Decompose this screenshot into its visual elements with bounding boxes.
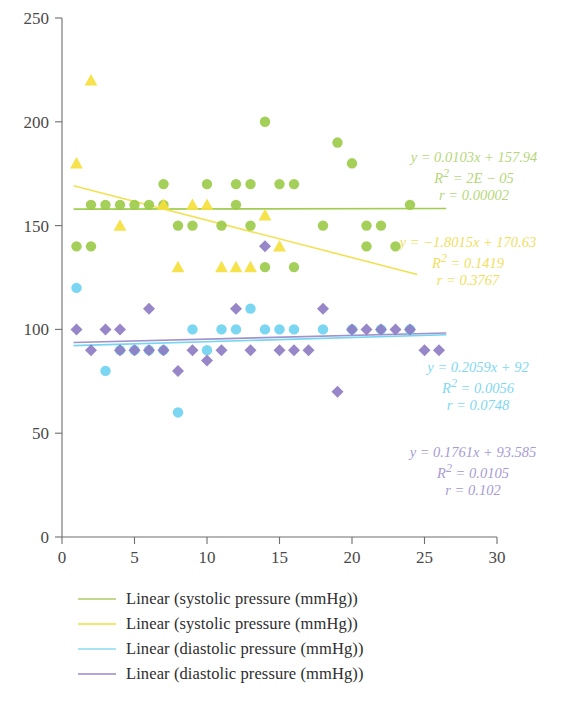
data-point-series-1 [244, 261, 257, 273]
data-point-series-0 [231, 200, 241, 210]
legend-item-0[interactable]: Linear (systolic pressure (mmHg)) [78, 586, 478, 611]
data-point-series-2 [274, 324, 284, 334]
equation-cyan-r: r = 0.0748 [386, 397, 570, 414]
data-point-series-0 [100, 200, 110, 210]
legend-swatch-icon [78, 598, 116, 600]
data-point-series-1 [114, 219, 127, 231]
data-point-series-3 [245, 344, 257, 356]
legend-swatch-icon [78, 673, 116, 675]
data-point-series-3 [71, 323, 83, 335]
x-tick-label: 30 [489, 548, 506, 567]
data-point-series-0 [347, 158, 357, 168]
scatter-chart: 050100150200250 051015202530 y = 0.0103x… [0, 0, 570, 702]
equation-yellow-rsquared: R2 = 0.1419 [366, 251, 570, 272]
legend-item-2[interactable]: Linear (diastolic pressure (mmHg)) [78, 636, 478, 661]
data-point-series-2 [71, 283, 81, 293]
data-point-series-0 [274, 179, 284, 189]
y-axis: 050100150200250 [24, 9, 63, 547]
equation-purple-rsquared: R2 = 0.0105 [376, 461, 570, 482]
data-point-series-3 [114, 344, 126, 356]
data-point-series-3 [114, 323, 126, 335]
data-point-series-0 [173, 220, 183, 230]
data-point-series-3 [143, 344, 155, 356]
data-point-series-0 [216, 220, 226, 230]
data-point-series-1 [70, 157, 83, 169]
data-point-series-1 [230, 261, 243, 273]
data-point-series-2 [260, 324, 270, 334]
data-point-series-0 [202, 179, 212, 189]
equation-yellow-rsquared-base: R [432, 255, 441, 271]
legend-item-3[interactable]: Linear (diastolic pressure (mmHg)) [78, 661, 478, 686]
data-point-series-1 [273, 240, 286, 252]
equation-green-rsquared: R2 = 2E − 05 [378, 166, 570, 187]
data-point-series-0 [129, 200, 139, 210]
data-point-series-0 [71, 241, 81, 251]
equation-cyan-rsquared-base: R [442, 380, 451, 396]
x-tick-label: 5 [130, 548, 139, 567]
x-tick-label: 25 [416, 548, 433, 567]
data-point-series-2 [173, 407, 183, 417]
x-tick-label: 15 [271, 548, 288, 567]
y-tick-label: 200 [24, 113, 50, 132]
legend-label: Linear (diastolic pressure (mmHg)) [126, 664, 364, 684]
equation-green-rsquared-value: = 2E − 05 [449, 170, 514, 186]
equation-purple-line1: y = 0.1761x + 93.585 [376, 444, 570, 461]
data-point-series-0 [144, 200, 154, 210]
data-point-series-3 [143, 303, 155, 315]
data-point-series-0 [289, 262, 299, 272]
data-point-series-0 [158, 179, 168, 189]
legend-label: Linear (systolic pressure (mmHg)) [126, 614, 358, 634]
data-point-series-0 [289, 179, 299, 189]
legend-swatch-icon [78, 648, 116, 650]
data-point-series-2 [187, 324, 197, 334]
data-point-series-1 [186, 198, 199, 210]
y-tick-label: 150 [24, 217, 50, 236]
equation-purple-r: r = 0.102 [376, 482, 570, 499]
data-point-series-2 [245, 303, 255, 313]
x-tick-label: 0 [58, 548, 67, 567]
y-tick-label: 0 [41, 528, 50, 547]
legend-item-1[interactable]: Linear (systolic pressure (mmHg)) [78, 611, 478, 636]
data-point-series-0 [376, 220, 386, 230]
data-point-series-3 [201, 355, 213, 367]
equation-purple-rsquared-base: R [437, 465, 446, 481]
data-point-series-0 [361, 220, 371, 230]
equation-green-rsquared-base: R [434, 170, 443, 186]
y-tick-label: 100 [24, 320, 50, 339]
equation-purple-rsquared-value: = 0.0105 [452, 465, 509, 481]
data-point-series-3 [375, 323, 387, 335]
data-point-series-3 [419, 344, 431, 356]
data-point-series-0 [245, 179, 255, 189]
chart-legend: Linear (systolic pressure (mmHg))Linear … [78, 586, 478, 686]
data-point-series-2 [231, 324, 241, 334]
data-point-series-1 [172, 261, 185, 273]
x-tick-label: 10 [199, 548, 216, 567]
data-point-series-3 [346, 323, 358, 335]
data-point-series-1 [85, 74, 98, 86]
data-point-series-0 [86, 241, 96, 251]
data-point-series-3 [172, 365, 184, 377]
data-point-series-0 [86, 200, 96, 210]
data-point-series-3 [158, 344, 170, 356]
data-point-series-0 [260, 262, 270, 272]
data-point-series-0 [231, 179, 241, 189]
trendline-2 [74, 335, 447, 346]
data-point-series-3 [361, 323, 373, 335]
equation-yellow-line1: y = −1.8015x + 170.63 [366, 234, 570, 251]
data-point-series-3 [317, 303, 329, 315]
data-point-series-2 [289, 324, 299, 334]
data-point-series-1 [215, 261, 228, 273]
data-point-series-3 [187, 344, 199, 356]
equation-yellow-rsquared-value: = 0.1419 [447, 255, 504, 271]
data-point-series-0 [245, 220, 255, 230]
data-point-series-3 [129, 344, 141, 356]
equation-block-green-trendline: y = 0.0103x + 157.94 R2 = 2E − 05 r = 0.… [378, 149, 570, 204]
data-point-series-0 [115, 200, 125, 210]
legend-swatch-icon [78, 623, 116, 625]
data-point-series-3 [100, 323, 112, 335]
data-point-series-2 [216, 324, 226, 334]
equation-cyan-rsquared: R2 = 0.0056 [386, 376, 570, 397]
y-tick-label: 250 [24, 9, 50, 28]
x-axis: 051015202530 [58, 537, 506, 567]
data-point-series-3 [332, 386, 344, 398]
